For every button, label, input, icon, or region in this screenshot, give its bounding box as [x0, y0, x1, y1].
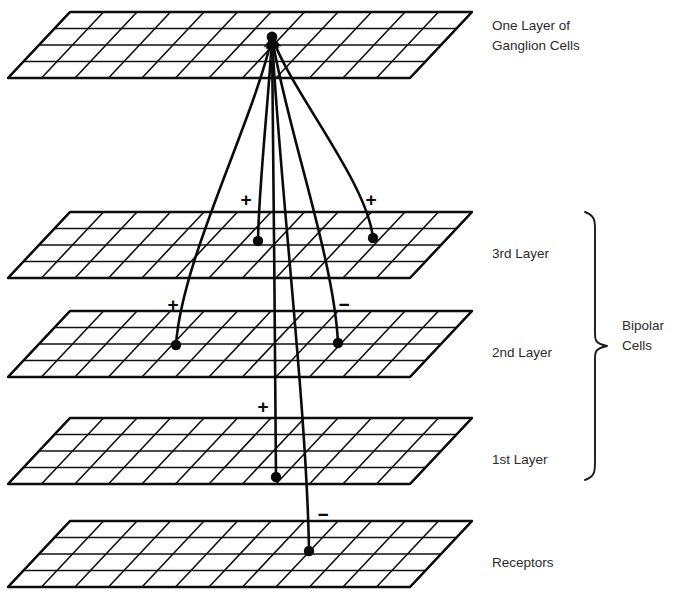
cell-body-cell-2a [171, 340, 181, 350]
sign-plus-conn-1a-ganglion: + [257, 396, 268, 417]
plane-ganglion [8, 12, 472, 78]
cell-body-cell-3b [368, 233, 378, 243]
label-ganglion-line1: One Layer of [492, 18, 570, 33]
cell-body-cell-2b [333, 338, 343, 348]
plane-second [8, 311, 472, 377]
cell-body-cell-3a [253, 236, 263, 246]
connection-conn-2b-ganglion [272, 37, 338, 343]
ganglion-cell-body [267, 32, 278, 43]
label-bipolar-cells-line2: Cells [622, 338, 652, 353]
label-bipolar-cells-line1: Bipolar [622, 318, 665, 333]
label-third-layer: 3rd Layer [492, 246, 550, 261]
cell-body-cell-r1 [304, 546, 314, 556]
sign-minus-conn-r1-ganglion: − [317, 504, 328, 525]
retina-layers-diagram: +++−+− One Layer of Ganglion Cells 3rd L… [0, 0, 684, 599]
plane-first [8, 418, 472, 484]
cell-body-cell-1a [271, 472, 281, 482]
sign-minus-conn-2b-ganglion: − [338, 294, 349, 315]
brace-curly [585, 212, 607, 480]
label-ganglion-line2: Ganglion Cells [492, 38, 580, 53]
sign-plus-conn-2a-ganglion: + [167, 294, 178, 315]
label-first-layer: 1st Layer [492, 452, 548, 467]
connection-conn-2a-ganglion [176, 37, 272, 345]
bipolar-cells-brace [585, 212, 607, 480]
plane-third [8, 212, 472, 278]
sign-plus-conn-3a-ganglion: + [240, 189, 251, 210]
sign-plus-conn-3b-ganglion: + [365, 189, 376, 210]
layer-labels: One Layer of Ganglion Cells 3rd Layer 2n… [492, 18, 665, 570]
label-second-layer: 2nd Layer [492, 345, 553, 360]
label-receptors: Receptors [492, 555, 554, 570]
figure-root: +++−+− One Layer of Ganglion Cells 3rd L… [0, 0, 684, 599]
plane-receptors [8, 521, 472, 587]
connection-conn-3b-ganglion [272, 37, 373, 238]
